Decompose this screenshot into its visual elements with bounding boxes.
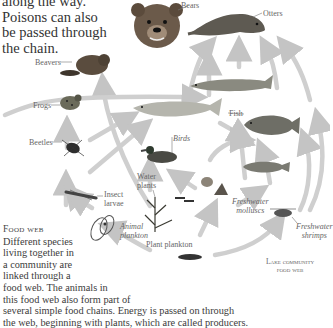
label-fish: Fish — [229, 109, 243, 118]
otter-illustration — [188, 14, 265, 35]
intro-line: Poisons can also — [2, 10, 132, 26]
caption-line: a community are — [3, 259, 125, 271]
caption-line: Different species — [3, 236, 125, 248]
label-insect-larvae: Insect larvae — [104, 190, 124, 208]
label-bears: Bears — [181, 1, 199, 10]
shrimp-illustration — [270, 209, 296, 217]
beaver-illustration — [60, 54, 110, 76]
label-water-plants: Water plants — [137, 172, 156, 190]
label-birds: Birds — [173, 134, 190, 143]
label-beavers: Beavers — [35, 58, 61, 67]
food-web-caption: Food web Different species living togeth… — [3, 224, 328, 328]
figure-title-line: food web — [255, 266, 325, 274]
intro-text: along the way. Poisons can also be passe… — [2, 0, 132, 56]
stickleback-illustration — [243, 162, 290, 173]
intro-line: the chain. — [2, 41, 132, 57]
caption-line: food web. The animals in — [3, 282, 328, 294]
label-line: molluscs — [232, 206, 269, 215]
duck-illustration — [141, 146, 177, 163]
label-otters: Otters — [263, 9, 283, 18]
mollusc-illustration — [201, 177, 228, 195]
bear-illustration — [131, 3, 183, 48]
carp-illustration — [244, 116, 300, 135]
intro-line: be passed through — [2, 25, 132, 41]
trout-illustration — [133, 98, 222, 117]
caption-title: Food web — [3, 224, 125, 236]
label-line: larvae — [104, 199, 124, 208]
label-freshwater-molluscs: Freshwater molluscs — [232, 197, 269, 215]
label-line: Freshwater — [232, 197, 269, 206]
label-line: plants — [137, 181, 156, 190]
caption-line: living together in — [3, 247, 125, 259]
label-line: Water — [137, 172, 156, 181]
caption-line: linked through a — [3, 270, 125, 282]
caption-line: the web, beginning with plants, which ar… — [3, 317, 328, 328]
caption-line: several simple food chains. Energy is pa… — [3, 305, 328, 317]
figure-title: Lake community food web — [255, 258, 325, 274]
label-frogs: Frogs — [33, 101, 51, 110]
pike-illustration — [190, 75, 273, 91]
frog-illustration — [60, 95, 82, 111]
caption-line: this food web also form part of — [3, 294, 328, 306]
label-beetles: Beetles — [29, 138, 53, 147]
label-line: Insect — [104, 190, 124, 199]
